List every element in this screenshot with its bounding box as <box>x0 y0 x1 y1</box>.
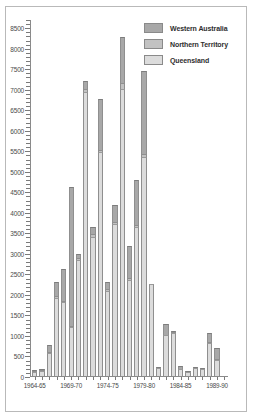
x-axis-tick <box>166 377 167 380</box>
stacked-bar[interactable] <box>156 367 161 376</box>
y-axis-minor-tick <box>26 45 30 46</box>
y-axis-minor-tick <box>26 53 30 54</box>
stacked-bar[interactable] <box>149 284 154 376</box>
x-axis-tick <box>64 377 65 380</box>
y-axis-major-tick <box>25 356 30 357</box>
y-axis-minor-tick <box>26 320 30 321</box>
stacked-bar[interactable] <box>178 366 183 376</box>
x-axis-tick <box>173 377 174 380</box>
x-axis-tick <box>159 377 160 380</box>
y-axis-minor-tick <box>26 155 30 156</box>
y-axis-major-tick <box>25 192 30 193</box>
bar-slot <box>148 20 155 376</box>
y-axis-label: 8000 <box>10 45 24 52</box>
y-axis-major-tick <box>25 377 30 378</box>
y-axis-label: 7000 <box>10 86 24 93</box>
stacked-bar[interactable] <box>207 333 212 376</box>
y-axis-minor-tick <box>26 184 30 185</box>
stacked-bar[interactable] <box>76 254 81 376</box>
bar-segment-queensland <box>112 224 117 376</box>
x-axis-tick <box>93 377 94 380</box>
x-axis-tick <box>224 377 225 380</box>
legend-label: Northern Territory <box>170 41 228 48</box>
x-axis-tick <box>202 377 203 380</box>
bar-slot <box>60 20 67 376</box>
bar-segment-queensland <box>76 260 81 376</box>
y-axis-minor-tick <box>26 20 30 21</box>
stacked-bar[interactable] <box>141 71 146 376</box>
x-axis-tick <box>122 377 123 380</box>
y-axis-minor-tick <box>26 86 30 87</box>
stacked-bar[interactable] <box>185 371 190 376</box>
bar-slot <box>199 20 206 376</box>
bar-segment-queensland <box>214 360 219 376</box>
bar-segment-queensland <box>54 298 59 376</box>
x-axis-label: 1974-75 <box>97 382 119 389</box>
y-axis-minor-tick <box>26 352 30 353</box>
stacked-bar[interactable] <box>69 187 74 376</box>
stacked-bar[interactable] <box>83 81 88 376</box>
y-axis-minor-tick <box>26 77 30 78</box>
bar-segment-queensland <box>127 280 132 376</box>
x-axis-tick <box>144 377 145 380</box>
stacked-bar[interactable] <box>200 368 205 376</box>
stacked-bar[interactable] <box>90 227 95 376</box>
bar-segment-queensland <box>105 291 110 376</box>
y-axis-minor-tick <box>26 41 30 42</box>
stacked-bar[interactable] <box>134 180 139 376</box>
bar-segment-queensland <box>98 152 103 376</box>
stacked-bar[interactable] <box>171 331 176 376</box>
bar-slot <box>155 20 162 376</box>
x-axis-tick <box>42 377 43 380</box>
x-axis-tick <box>188 377 189 380</box>
bar-segment-western-australia <box>134 180 139 225</box>
y-axis-major-tick <box>25 254 30 255</box>
legend-swatch-icon <box>144 23 163 33</box>
bar-slot <box>53 20 60 376</box>
stacked-bar[interactable] <box>214 348 219 376</box>
bar-segment-western-australia <box>83 81 88 89</box>
stacked-bar[interactable] <box>32 370 37 376</box>
y-axis-minor-tick <box>26 135 30 136</box>
y-axis-major-tick <box>25 295 30 296</box>
y-axis-minor-tick <box>26 262 30 263</box>
y-axis-minor-tick <box>26 242 30 243</box>
y-axis-minor-tick <box>26 139 30 140</box>
stacked-bar[interactable] <box>47 345 52 376</box>
stacked-bar[interactable] <box>54 282 59 376</box>
bar-segment-queensland <box>207 343 212 376</box>
y-axis-major-tick <box>25 28 30 29</box>
x-axis-tick <box>78 377 79 380</box>
legend-item[interactable]: Queensland <box>144 55 228 65</box>
stacked-bar[interactable] <box>163 324 168 376</box>
y-axis-minor-tick <box>26 307 30 308</box>
stacked-bar[interactable] <box>105 282 110 376</box>
y-axis-minor-tick <box>26 258 30 259</box>
stacked-bar[interactable] <box>120 37 125 376</box>
stacked-bar[interactable] <box>193 367 198 376</box>
stacked-bar[interactable] <box>39 369 44 376</box>
y-axis-minor-tick <box>26 328 30 329</box>
bar-segment-queensland <box>163 335 168 376</box>
stacked-bar[interactable] <box>98 99 103 376</box>
stacked-bar[interactable] <box>112 205 117 377</box>
y-axis-label: 4500 <box>10 189 24 196</box>
x-axis-label: 1984-85 <box>170 382 192 389</box>
legend-item[interactable]: Northern Territory <box>144 39 228 49</box>
bar-slot <box>46 20 53 376</box>
x-axis-ticks: 1964-651969-701974-751979-801984-851989-… <box>31 377 228 397</box>
bar-slot <box>177 20 184 376</box>
y-axis-minor-tick <box>26 221 30 222</box>
legend-label: Western Australia <box>170 25 227 32</box>
y-axis-major-tick <box>25 131 30 132</box>
legend-item[interactable]: Western Australia <box>144 23 228 33</box>
stacked-bar[interactable] <box>127 246 132 376</box>
y-axis-minor-tick <box>26 65 30 66</box>
x-axis-tick <box>151 377 152 380</box>
y-axis-minor-tick <box>26 196 30 197</box>
legend-swatch-icon <box>144 39 163 49</box>
stacked-bar[interactable] <box>61 269 66 376</box>
bar-slot <box>184 20 191 376</box>
y-axis-label: 1000 <box>10 332 24 339</box>
y-axis-label: 4000 <box>10 209 24 216</box>
